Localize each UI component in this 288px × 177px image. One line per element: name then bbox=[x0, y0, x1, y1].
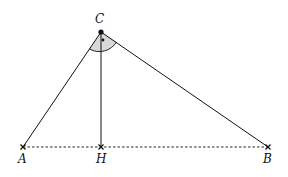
label-h: H bbox=[95, 152, 107, 166]
angle-mark-c bbox=[90, 32, 117, 52]
segment-cb bbox=[101, 32, 268, 147]
point-c bbox=[98, 29, 103, 34]
label-b: B bbox=[262, 152, 272, 166]
triangle-diagram: C A H B bbox=[0, 0, 288, 177]
angle-dot bbox=[102, 39, 105, 42]
segment-ca bbox=[23, 32, 101, 147]
label-a: A bbox=[17, 152, 27, 166]
label-c: C bbox=[95, 12, 104, 26]
